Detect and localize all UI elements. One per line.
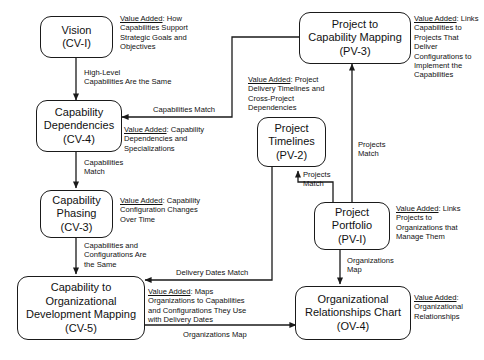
value-added-text: : Links Capabilities to Projects That De… xyxy=(414,14,478,79)
node-line: Development Mapping xyxy=(26,308,136,322)
node-line: Capability xyxy=(52,194,100,208)
node-line: Relationships Chart xyxy=(305,306,401,320)
value-added-cv1: Value Added: How Capabilities Support St… xyxy=(120,14,206,52)
value-added-key: Value Added xyxy=(124,125,167,134)
node-line: Dependencies xyxy=(44,119,114,133)
value-added-ov4: Value Added: Organizational Relationship… xyxy=(414,293,482,321)
edge-label-cv5-ov4: Organizations Map xyxy=(183,330,247,339)
node-line: Organizational xyxy=(318,293,389,307)
node-line: Capability xyxy=(55,106,103,120)
node-line: Vision xyxy=(62,24,92,38)
node-line: Portfolio xyxy=(332,219,372,233)
node-capability-dependencies-cv4[interactable]: Capability Dependencies (CV-4) xyxy=(36,100,122,152)
node-line: (CV-3) xyxy=(61,221,93,235)
edge-label-cv1-cv4: High-Level Capabilities Are the Same xyxy=(84,68,171,87)
value-added-cv3: Value Added: Capability Configuration Ch… xyxy=(120,196,226,224)
value-added-key: Value Added xyxy=(396,204,439,213)
node-line: (CV-4) xyxy=(63,133,95,147)
node-line: Organizational xyxy=(46,295,117,309)
diagram-canvas: Vision (CV-I) Capability Dependencies (C… xyxy=(0,0,484,360)
node-line: (CV-I) xyxy=(62,37,91,51)
value-added-key: Value Added xyxy=(414,14,457,23)
edge-label-cv4-cv3: Capabilities Match xyxy=(84,158,123,177)
value-added-cv4: Value Added: Capability Dependencies and… xyxy=(124,125,224,153)
node-line: Project to xyxy=(332,18,378,32)
edge-label-pv1-pv2: Projects Match xyxy=(303,170,330,189)
edge-label-pv1-pv3: Projects Match xyxy=(358,140,385,159)
node-capability-phasing-cv3[interactable]: Capability Phasing (CV-3) xyxy=(40,190,113,238)
node-project-timelines-pv2[interactable]: Project Timelines (PV-2) xyxy=(257,117,326,167)
node-line: Capability to xyxy=(51,281,112,295)
edge-label-pv2-cv5: Delivery Dates Match xyxy=(176,268,248,277)
value-added-key: Value Added xyxy=(120,14,163,23)
edge-label-cv3-cv5: Capabilities and Configurations Are the … xyxy=(84,241,146,269)
node-line: Timelines xyxy=(268,135,315,149)
node-line: (PV-I) xyxy=(338,233,366,247)
value-added-pv3: Value Added: Links Capabilities to Proje… xyxy=(414,14,482,80)
value-added-key: Value Added xyxy=(414,293,457,302)
node-project-portfolio-pv1[interactable]: Project Portfolio (PV-I) xyxy=(314,202,390,250)
node-vision-cv1[interactable]: Vision (CV-I) xyxy=(40,16,113,58)
value-added-pv2: Value Added: Project Delivery Timelines … xyxy=(248,75,352,113)
edge-label-pv1-ov4: Organizations Map xyxy=(347,256,394,275)
node-line: (PV-2) xyxy=(276,149,307,163)
node-organizational-relationships-chart-ov4[interactable]: Organizational Relationships Chart (OV-4… xyxy=(295,286,411,340)
value-added-key: Value Added xyxy=(248,75,291,84)
value-added-cv5: Value Added: Maps Organizations to Capab… xyxy=(148,287,288,325)
value-added-pv1: Value Added: Links Projects to Organizat… xyxy=(396,204,480,242)
node-line: (CV-5) xyxy=(65,322,97,336)
node-line: (OV-4) xyxy=(337,320,369,334)
node-line: Phasing xyxy=(57,207,97,221)
value-added-key: Value Added xyxy=(120,196,163,205)
node-line: (PV-3) xyxy=(339,45,370,59)
node-line: Capability Mapping xyxy=(308,31,402,45)
node-capability-to-org-development-mapping-cv5[interactable]: Capability to Organizational Development… xyxy=(17,276,145,340)
node-line: Project xyxy=(274,122,308,136)
node-line: Project xyxy=(335,206,369,220)
value-added-key: Value Added xyxy=(148,287,191,296)
edge-label-pv3-cv4: Capabilities Match xyxy=(153,105,215,114)
node-project-to-capability-mapping-pv3[interactable]: Project to Capability Mapping (PV-3) xyxy=(299,12,411,64)
